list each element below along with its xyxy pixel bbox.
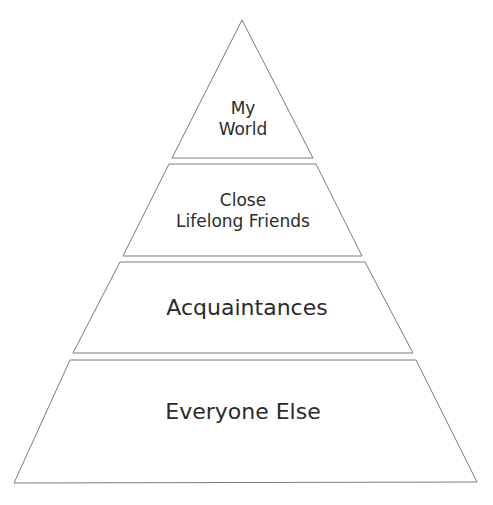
pyramid-level-2-label: Close Lifelong Friends (176, 190, 310, 233)
pyramid-level-3-label: Acquaintances (166, 294, 327, 322)
level-2-line-1: Close (176, 190, 310, 211)
level-1-line-1: My (219, 98, 268, 119)
pyramid-level-4-label: Everyone Else (165, 398, 320, 426)
pyramid-level-1-label: My World (219, 98, 268, 141)
pyramid-diagram (0, 0, 493, 505)
level-4-line-1: Everyone Else (165, 398, 320, 426)
level-1-line-2: World (219, 119, 268, 140)
level-2-line-2: Lifelong Friends (176, 211, 310, 232)
level-3-line-1: Acquaintances (166, 294, 327, 322)
